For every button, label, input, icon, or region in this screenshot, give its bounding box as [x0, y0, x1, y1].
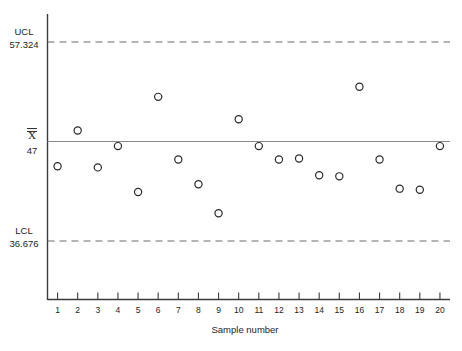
data-point [436, 143, 443, 150]
data-point [336, 173, 343, 180]
data-point [396, 185, 403, 192]
x-axis-tick-label: 3 [95, 305, 100, 315]
x-axis-tick-label: 16 [355, 305, 365, 315]
data-point [74, 127, 81, 134]
lcl-value: 36.676 [9, 238, 38, 249]
x-axis-tick-label: 6 [156, 305, 161, 315]
x-axis-tick-label: 1 [55, 305, 60, 315]
data-point [316, 172, 323, 179]
x-axis-tick-label: 8 [196, 305, 201, 315]
data-point [94, 164, 101, 171]
x-axis-tick-label: 17 [375, 305, 385, 315]
control-chart-svg: UCL 57.324 X 47 LCL 36.676 1234567891011… [0, 0, 462, 351]
data-point [195, 181, 202, 188]
data-point [275, 156, 282, 163]
control-chart-figure: UCL 57.324 X 47 LCL 36.676 1234567891011… [0, 0, 462, 351]
lcl-label: LCL [15, 225, 32, 236]
ucl-value: 57.324 [9, 39, 38, 50]
x-axis-tick-label: 15 [335, 305, 345, 315]
x-axis-tick-label: 18 [395, 305, 405, 315]
data-point [235, 116, 242, 123]
data-point [54, 163, 61, 170]
x-axis-tick-label: 19 [415, 305, 425, 315]
x-axis-tick-label: 4 [116, 305, 121, 315]
center-line-symbol: X [28, 129, 36, 141]
data-point [175, 156, 182, 163]
x-axis-tick-label: 5 [136, 305, 141, 315]
data-point [255, 143, 262, 150]
data-point [134, 188, 141, 195]
x-axis-tick-label: 9 [216, 305, 221, 315]
x-axis-tick-label: 12 [274, 305, 284, 315]
x-axis-tick-label: 20 [435, 305, 445, 315]
data-point [295, 155, 302, 162]
x-axis-tick-label: 14 [314, 305, 324, 315]
data-point [416, 186, 423, 193]
x-axis-tick-label: 10 [234, 305, 244, 315]
data-point [114, 143, 121, 150]
data-point [376, 156, 383, 163]
x-axis-tick-label: 2 [75, 305, 80, 315]
ucl-label: UCL [14, 26, 33, 37]
data-point [215, 210, 222, 217]
x-axis-tick-label: 13 [294, 305, 304, 315]
data-point [155, 93, 162, 100]
chart-background [0, 0, 462, 351]
x-axis-title: Sample number [211, 324, 278, 335]
data-point [356, 83, 363, 90]
center-line-value: 47 [27, 145, 38, 156]
x-axis-tick-label: 7 [176, 305, 181, 315]
x-axis-tick-label: 11 [254, 305, 263, 315]
